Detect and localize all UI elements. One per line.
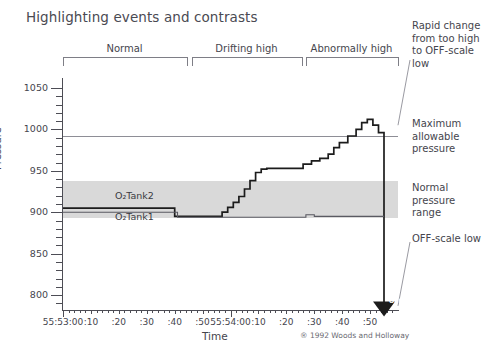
annotation-max-allowable: Maximum allowable pressure (412, 118, 482, 156)
annotation-leader-line (398, 60, 410, 125)
series-label-tank2-text: O₂Tank2 (115, 190, 154, 201)
series-label-tank2: O₂Tank2 (115, 190, 154, 201)
series-path-o2tank2 (63, 119, 384, 307)
annotation-rapid-change: Rapid change from too high to OFF-scale … (412, 20, 482, 70)
series-label-tank1-text: O₂Tank1 (115, 211, 154, 222)
annotation-off-scale-low: OFF-scale low (412, 233, 482, 246)
series-label-tank1: O₂Tank1 (115, 211, 154, 222)
annotation-normal-range: Normal pressure range (412, 182, 482, 220)
off-marker-label: OFF (389, 297, 403, 304)
